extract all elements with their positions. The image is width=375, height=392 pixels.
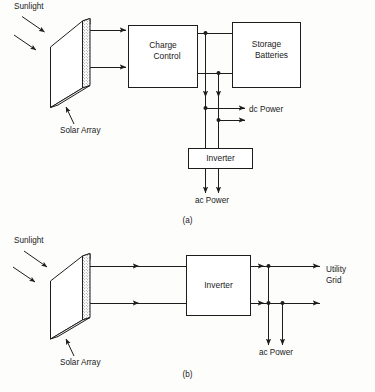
charge-control-label-line2: Control xyxy=(128,51,198,62)
charge-control-label: Charge Control xyxy=(128,40,198,62)
sunlight-arrow-upper-b xyxy=(24,251,47,267)
ac-power-tap-right-b xyxy=(281,301,285,345)
utility-grid-label: Utility Grid xyxy=(326,264,346,286)
sunlight-label-a: Sunlight xyxy=(14,2,44,11)
solar-array-panel-b xyxy=(51,254,91,340)
storage-batteries-label: Storage Batteries xyxy=(232,39,301,61)
solar-array-leader-b xyxy=(66,339,74,356)
dc-power-label: dc Power xyxy=(249,105,283,114)
dc-power-branch-upper xyxy=(204,106,246,110)
sunlight-arrow-lower-b xyxy=(13,267,35,282)
charge-control-label-line1: Charge xyxy=(128,40,198,51)
utility-grid-label-line2: Grid xyxy=(326,275,346,286)
junction-dot-a-2 xyxy=(217,71,221,75)
sunlight-arrow-lower-a xyxy=(14,35,36,50)
solar-array-panel-a xyxy=(51,19,91,108)
storage-batteries-label-line1: Storage xyxy=(232,39,301,50)
sunlight-arrow-upper-a xyxy=(22,17,45,33)
solar-array-label-a: Solar Array xyxy=(60,126,101,135)
utility-grid-label-line1: Utility xyxy=(326,264,346,275)
caption-b: (b) xyxy=(0,370,375,379)
solar-array-leader-a xyxy=(66,107,74,124)
junction-dot-a-1 xyxy=(204,31,208,35)
solar-array-label-b: Solar Array xyxy=(60,358,101,367)
sunlight-label-b: Sunlight xyxy=(14,236,44,245)
inverter-label-a: Inverter xyxy=(188,153,253,163)
ac-power-label-a: ac Power xyxy=(186,196,238,205)
diagram-b-group xyxy=(13,251,320,356)
caption-a: (a) xyxy=(0,216,375,225)
inverter-label-b: Inverter xyxy=(186,280,251,290)
storage-batteries-label-line2: Batteries xyxy=(232,50,301,61)
junction-dot-b-1 xyxy=(267,301,271,305)
figure-canvas: Sunlight Solar Array Charge Control Stor… xyxy=(0,0,375,392)
ac-power-label-b: ac Power xyxy=(250,348,302,357)
dc-power-branch-lower xyxy=(217,118,246,122)
